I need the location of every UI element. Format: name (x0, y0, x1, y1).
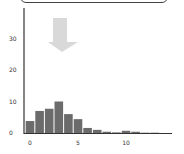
y-tick-labels: 0102030 (9, 35, 17, 137)
y-tick-label: 20 (9, 66, 17, 73)
histogram-chart: 0102030 0510 (0, 0, 184, 154)
bar-9 (112, 132, 121, 133)
bar-8 (103, 132, 112, 133)
x-tick-label: 10 (122, 139, 130, 146)
x-tick-labels: 0510 (28, 139, 130, 146)
bar-11 (131, 132, 140, 133)
bar-1 (35, 111, 44, 133)
x-tick-label: 0 (28, 139, 32, 146)
y-tick-label: 0 (9, 129, 13, 136)
bar-3 (55, 102, 64, 134)
bar-4 (64, 114, 73, 133)
bar-5 (74, 119, 83, 133)
bars (26, 102, 159, 134)
bar-2 (45, 109, 54, 133)
bar-6 (83, 128, 92, 133)
y-tick-label: 30 (9, 35, 17, 42)
x-tick-label: 5 (76, 139, 80, 146)
y-tick-label: 10 (9, 98, 17, 105)
bar-10 (122, 131, 131, 133)
bar-0 (26, 121, 35, 133)
down-arrow-icon (48, 18, 78, 52)
bar-7 (93, 130, 102, 133)
